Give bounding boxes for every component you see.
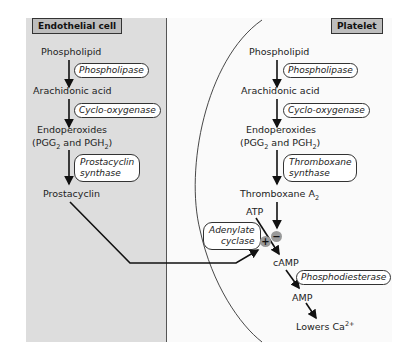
plus-stimulation-icon: + <box>260 236 271 247</box>
camp-label: cAMP <box>273 257 299 268</box>
plat-arachidonic-acid: Arachidonic acid <box>241 85 320 96</box>
thromboxane-a2: Thromboxane A2 <box>240 188 319 202</box>
plat-endoperoxides: Endoperoxides <box>246 124 316 135</box>
plat-pgg-pgh: (PGG2 and PGH2) <box>240 137 320 151</box>
endo-cyclo-oxygenase-enzyme: Cyclo-oxygenase <box>74 103 161 118</box>
endo-phospholipid: Phospholipid <box>41 46 101 57</box>
adenylate-cyclase-enzyme: Adenylatecyclase <box>203 222 261 250</box>
thromboxane-synthase-enzyme: Thromboxanesynthase <box>283 154 357 182</box>
prostacyclin-synthase-enzyme: Prostacyclinsynthase <box>74 154 140 182</box>
phosphodiesterase-enzyme: Phosphodiesterase <box>296 270 391 285</box>
endo-pgg-pgh: (PGG2 and PGH2) <box>32 137 112 151</box>
atp-label: ATP <box>246 206 263 217</box>
endo-phospholipase-enzyme: Phospholipase <box>74 63 149 78</box>
lowers-ca-label: Lowers Ca2+ <box>296 320 354 332</box>
plat-cyclo-oxygenase-enzyme: Cyclo-oxygenase <box>283 103 370 118</box>
amp-label: AMP <box>292 292 312 303</box>
endo-endoperoxides: Endoperoxides <box>37 124 107 135</box>
platelet-label: Platelet <box>331 18 383 34</box>
plat-phospholipase-enzyme: Phospholipase <box>283 63 358 78</box>
minus-inhibition-icon: − <box>271 231 282 242</box>
plat-phospholipid: Phospholipid <box>249 46 309 57</box>
endothelial-cell-label: Endothelial cell <box>32 18 122 34</box>
prostacyclin-product: Prostacyclin <box>43 188 100 199</box>
endo-arachidonic-acid: Arachidonic acid <box>33 85 112 96</box>
